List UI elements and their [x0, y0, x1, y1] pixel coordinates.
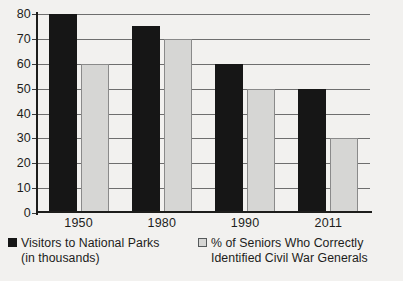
legend-entry-visitors: Visitors to National Parks (in thousands…	[8, 236, 159, 265]
y-tick-label-0: 0	[24, 207, 31, 220]
legend-label-seniors-line2: Identified Civil War Generals	[211, 251, 368, 266]
bar-1950-series2	[81, 64, 109, 213]
legend-label-seniors-line1: % of Seniors Who Correctly	[211, 236, 368, 251]
x-tick-label-1980: 1980	[120, 216, 203, 230]
chart-legend: Visitors to National Parks (in thousands…	[0, 236, 403, 278]
bar-1990-series1	[215, 64, 243, 213]
gridline-70	[37, 39, 370, 40]
x-tick-label-2011: 2011	[287, 216, 370, 230]
bar-1950-series1	[49, 14, 77, 213]
y-tick-label-30: 30	[17, 132, 31, 145]
y-tick-label-70: 70	[17, 33, 31, 46]
legend-label-visitors-line2: (in thousands)	[21, 251, 159, 266]
bar-2011-series2	[330, 138, 358, 213]
y-axis-line	[36, 12, 38, 215]
legend-label-seniors: % of Seniors Who Correctly Identified Ci…	[211, 236, 368, 265]
legend-swatch-icon-light	[198, 238, 207, 247]
x-tick-label-1950: 1950	[37, 216, 120, 230]
bar-2011-series1	[298, 89, 326, 213]
bar-1980-series1	[132, 26, 160, 213]
y-axis-tick-labels: 80706050403020100	[4, 14, 31, 213]
plot-area	[37, 14, 370, 213]
y-tick-label-20: 20	[17, 157, 31, 170]
legend-label-visitors: Visitors to National Parks (in thousands…	[21, 236, 159, 265]
bar-1980-series2	[164, 39, 192, 213]
x-axis-line	[36, 211, 372, 213]
legend-entry-seniors: % of Seniors Who Correctly Identified Ci…	[198, 236, 368, 265]
y-tick-label-10: 10	[17, 182, 31, 195]
y-tick-label-50: 50	[17, 83, 31, 96]
y-tick-label-40: 40	[17, 108, 31, 121]
bar-chart: 80706050403020100 1950198019902011 Visit…	[0, 0, 403, 281]
legend-label-visitors-line1: Visitors to National Parks	[21, 236, 159, 251]
gridline-80	[37, 14, 370, 15]
legend-swatch-icon-dark	[8, 238, 17, 247]
y-tick-label-80: 80	[17, 8, 31, 21]
x-axis-tick-labels: 1950198019902011	[37, 216, 370, 234]
x-tick-label-1990: 1990	[204, 216, 287, 230]
y-tick-label-60: 60	[17, 58, 31, 71]
bar-1990-series2	[247, 89, 275, 213]
